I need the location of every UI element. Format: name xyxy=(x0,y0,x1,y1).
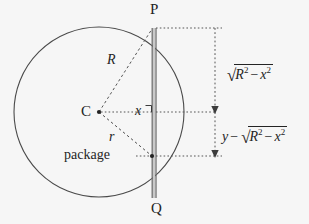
upper-minus-sign: − xyxy=(248,67,260,82)
measure-arrow-bottom xyxy=(211,150,218,158)
right-angle-marker xyxy=(146,106,152,113)
upper-radicand-second-exponent: 2 xyxy=(267,65,272,75)
lower-minus-sign: − xyxy=(263,129,275,144)
lower-radicand-second-exponent: 2 xyxy=(281,127,286,137)
lower-lead-minus: − xyxy=(228,129,240,144)
lower-radicand-first-var: R xyxy=(249,129,258,144)
radius-r-big-line xyxy=(99,29,152,112)
center-point-dot xyxy=(97,110,101,114)
upper-measure-expression: √R2−x2 xyxy=(226,64,273,84)
point-p-label: P xyxy=(150,2,158,17)
geometry-diagram-svg xyxy=(0,0,309,224)
center-c-label: C xyxy=(81,104,91,119)
upper-radicand-first-var: R xyxy=(235,67,244,82)
upper-radical: √R2−x2 xyxy=(226,64,273,84)
figure-canvas: P Q C R r x package √R2−x2 y−√R2−x2 xyxy=(0,0,309,224)
point-q-label: Q xyxy=(151,201,162,216)
upper-radicand: R2−x2 xyxy=(234,64,273,82)
package-point-dot xyxy=(150,154,154,158)
lower-measure-expression: y−√R2−x2 xyxy=(222,126,287,146)
package-label: package xyxy=(64,148,110,162)
segment-x-label: x xyxy=(135,104,141,118)
radius-r-small-label: r xyxy=(109,130,114,144)
radius-r-big-label: R xyxy=(107,53,116,67)
lower-radicand-first-exponent: 2 xyxy=(258,127,263,137)
lower-radical: √R2−x2 xyxy=(240,126,287,146)
measure-arrow-mid xyxy=(211,106,218,114)
lower-radicand: R2−x2 xyxy=(248,126,287,144)
